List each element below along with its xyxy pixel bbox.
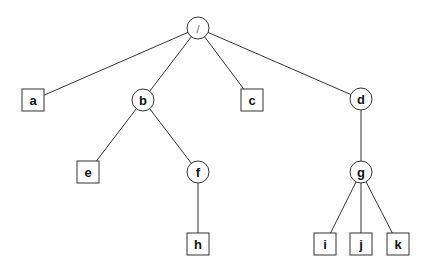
- edge-root-a: [44, 32, 188, 95]
- node-f: f: [187, 161, 209, 183]
- edge-b-e: [96, 109, 136, 161]
- node-root: /: [187, 17, 209, 39]
- tree-edges: [44, 32, 392, 233]
- node-i: i: [314, 233, 336, 255]
- edge-root-c: [205, 37, 244, 89]
- node-label: c: [248, 93, 255, 108]
- edge-b-f: [150, 109, 192, 164]
- node-a: a: [22, 89, 44, 111]
- node-j: j: [350, 233, 372, 255]
- node-label: j: [358, 237, 363, 252]
- node-label: b: [139, 93, 147, 108]
- node-label: k: [394, 237, 402, 252]
- edge-root-d: [208, 32, 351, 94]
- node-g: g: [350, 161, 372, 183]
- node-label: d: [357, 92, 365, 107]
- node-k: k: [387, 233, 409, 255]
- node-c: c: [241, 89, 263, 111]
- node-label: h: [194, 237, 202, 252]
- node-d: d: [350, 88, 372, 110]
- edge-root-b: [150, 37, 192, 92]
- node-h: h: [187, 233, 209, 255]
- node-b: b: [132, 89, 154, 111]
- node-e: e: [77, 161, 99, 183]
- edge-g-k: [366, 182, 392, 233]
- node-label: e: [84, 165, 91, 180]
- node-label: i: [323, 237, 327, 252]
- tree-nodes: /abcdefghijk: [22, 17, 409, 255]
- node-label: f: [196, 165, 201, 180]
- node-label: a: [29, 93, 37, 108]
- node-label: g: [357, 165, 365, 180]
- edge-g-i: [331, 182, 357, 233]
- tree-diagram: /abcdefghijk: [0, 0, 431, 270]
